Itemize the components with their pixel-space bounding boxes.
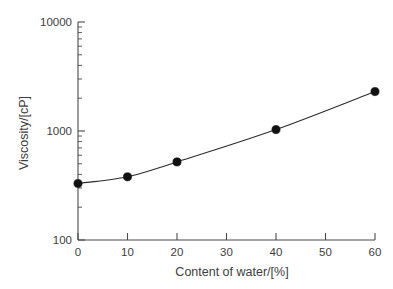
x-tick-label-20: 20	[171, 246, 184, 258]
x-tick-label-0: 0	[75, 246, 81, 258]
x-tick-label-50: 50	[319, 246, 332, 258]
x-tick-label-10: 10	[121, 246, 134, 258]
y-tick-label-100: 100	[53, 234, 72, 246]
data-point	[123, 173, 131, 181]
y-tick-label-1000: 1000	[46, 125, 72, 137]
y-axis-title: Viscosity/[cP]	[17, 96, 31, 170]
y-tick-label-10000: 10000	[40, 16, 72, 28]
chart-figure: 10000 1000 100 0 10 20 30 40 50 60 Conte…	[0, 0, 393, 289]
data-point	[371, 87, 379, 95]
data-point	[272, 126, 280, 134]
x-tick-label-30: 30	[220, 246, 233, 258]
x-tick-label-40: 40	[270, 246, 283, 258]
data-point	[173, 158, 181, 166]
data-point	[74, 179, 82, 187]
viscosity-line-chart: 10000 1000 100 0 10 20 30 40 50 60 Conte…	[0, 0, 393, 289]
x-axis-title: Content of water/[%]	[175, 265, 288, 279]
x-tick-label-60: 60	[369, 246, 382, 258]
